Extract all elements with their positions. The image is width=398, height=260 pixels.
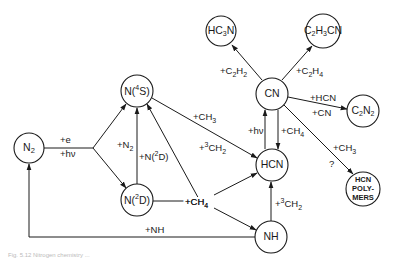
label-plus-nh: +NH xyxy=(145,224,164,235)
node-n4s: N(4S) xyxy=(121,75,153,107)
node-c2n2: C2N2 xyxy=(347,95,379,127)
node-c2h3cn: C2H3CN xyxy=(304,14,342,48)
label-plus-hcn: +HCN xyxy=(310,92,336,103)
label-question: ? xyxy=(329,158,334,169)
svg-text:HCN: HCN xyxy=(261,158,284,170)
edge-ch4-to-nh xyxy=(214,208,256,230)
svg-text:MERS: MERS xyxy=(352,193,374,202)
svg-text:POLY-: POLY- xyxy=(352,184,374,193)
svg-text:CN: CN xyxy=(264,87,279,99)
svg-text:NH: NH xyxy=(263,230,278,242)
edge-junction-to-n2d xyxy=(93,148,126,188)
node-hcn: HCN xyxy=(256,149,288,181)
label-ch3-a: +CH3 xyxy=(193,111,216,124)
edge-ch4-to-hcn xyxy=(214,173,257,195)
label-c2h2: +C2H2 xyxy=(220,65,247,78)
label-c2h4: +C2H4 xyxy=(296,65,323,78)
label-ch4-mid-text: +CH4 xyxy=(185,196,208,209)
node-hc3n: HC3N xyxy=(206,16,236,46)
label-3ch2-b: +3CH2 xyxy=(275,197,302,211)
label-photon-cn: +hν xyxy=(248,125,264,136)
label-ch4-cn: +CH4 xyxy=(281,125,304,138)
label-3ch2-a: +3CH2 xyxy=(199,141,226,155)
figure-caption: Fig. 5.12 Nitrogen chemistry ... xyxy=(8,252,90,258)
node-cn: CN xyxy=(256,78,288,110)
label-plus-n2d: +N(2D) xyxy=(139,150,169,162)
label-photon-n2: +hν xyxy=(60,148,76,159)
label-ch3-b: +CH3 xyxy=(333,142,356,155)
node-n2: N2 xyxy=(14,133,44,163)
node-nh: NH xyxy=(255,221,287,253)
label-plus-cn: +CN xyxy=(312,107,331,118)
svg-text:HCN: HCN xyxy=(355,175,371,184)
node-hcn-polymers: HCN POLY- MERS xyxy=(346,172,380,206)
svg-text:C2H3CN: C2H3CN xyxy=(304,24,342,37)
label-plus-n2: +N2 xyxy=(117,139,133,152)
label-electron: +e xyxy=(60,134,71,145)
svg-text:HC3N: HC3N xyxy=(208,24,235,37)
reaction-diagram: +e +hν +N2 +N(2D) +CH3 +3CH2 +CH4 +CH4 +… xyxy=(0,0,398,260)
node-n2d: N(2D) xyxy=(121,184,153,216)
